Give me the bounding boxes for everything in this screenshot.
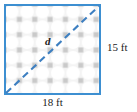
height-label: 15 ft <box>107 42 127 53</box>
diagonal-dashed-line <box>6 6 99 93</box>
width-label: 18 ft <box>0 97 105 108</box>
geometry-figure: d 15 ft 18 ft <box>0 0 137 112</box>
diagonal-overlay <box>0 0 137 112</box>
diagonal-label: d <box>45 36 51 47</box>
